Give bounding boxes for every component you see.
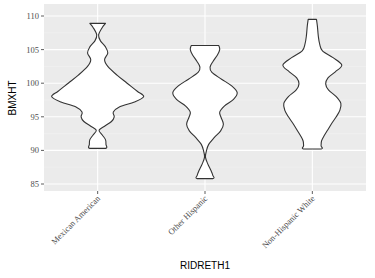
violin-chart: 859095100105110 Mexican AmericanOther Hi… [0, 0, 375, 278]
y-tick-label: 105 [26, 45, 39, 55]
x-tick-label: Non-Hispanic White [260, 193, 317, 250]
x-tick-label: Mexican American [49, 193, 102, 246]
y-axis-title: BMXHT [7, 81, 18, 116]
y-tick-label: 95 [31, 112, 40, 122]
y-tick-label: 110 [27, 11, 39, 21]
y-tick-label: 90 [31, 145, 40, 155]
x-tick-label: Other Hispanic [166, 193, 210, 237]
y-tick-label: 100 [26, 78, 39, 88]
x-axis-title: RIDRETH1 [180, 260, 230, 271]
y-axis: 859095100105110 [26, 11, 44, 189]
x-axis: Mexican AmericanOther HispanicNon-Hispan… [49, 191, 317, 250]
y-tick-label: 85 [31, 179, 40, 189]
